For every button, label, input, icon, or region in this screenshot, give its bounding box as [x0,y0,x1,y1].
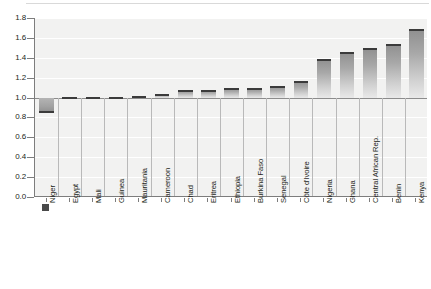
bar-value-cap [39,111,54,113]
y-axis-tick [27,177,34,178]
top-divider-rule [26,3,429,4]
bar-value-cap [363,48,378,50]
y-axis-tick-label: 0.4 [2,153,26,161]
bar[interactable] [409,29,424,98]
x-axis-tick [277,198,278,202]
bar[interactable] [201,90,216,98]
category-divider [359,98,360,197]
category-divider [58,98,59,197]
bar-value-cap [294,81,309,83]
y-axis-tick-label: 0.8 [2,113,26,121]
x-axis-category-label: Eritrea [210,181,218,203]
y-axis-tick [27,78,34,79]
y-axis-tick-label: 1.6 [2,34,26,42]
x-axis-category-label: Ghana [349,180,357,203]
bar[interactable] [386,44,401,98]
category-divider [336,98,337,197]
y-axis-tick [27,58,34,59]
y-axis-tick-label: 0.6 [2,133,26,141]
bar[interactable] [363,48,378,98]
bar-value-cap [86,97,101,99]
bar[interactable] [39,98,54,114]
y-axis-tick [27,38,34,39]
first-category-marker-swatch [42,204,49,211]
x-axis-category-label: Senegal [280,175,288,203]
y-axis-tick [27,197,34,198]
x-axis-tick [346,198,347,202]
x-axis-tick [115,198,116,202]
bar-value-cap [224,88,239,90]
y-axis-labels: 0.00.20.40.60.81.01.21.41.61.8 [0,0,26,289]
bar-value-cap [109,97,124,99]
x-axis-tick [161,198,162,202]
x-axis-category-label: Central African Rep. [372,136,380,203]
x-axis-category-label: Ethiopia [234,176,242,203]
x-axis-tick [92,198,93,202]
bar-value-cap [247,88,262,90]
bar[interactable] [62,97,77,99]
y-axis-tick-label: 1.0 [2,94,26,102]
bar[interactable] [340,52,355,98]
bar-value-cap [409,29,424,31]
x-axis-category-label: Côte d'Ivoire [303,161,311,203]
category-divider [174,98,175,197]
x-axis-tick [392,198,393,202]
x-axis-tick [369,198,370,202]
category-divider [382,98,383,197]
y-axis-tick-label: 0.0 [2,193,26,201]
x-axis-category-label: Niger [49,185,57,203]
bar[interactable] [294,81,309,98]
x-axis-tick [138,198,139,202]
bar[interactable] [178,90,193,98]
gridline [35,18,427,19]
bar[interactable] [132,96,147,98]
gridline [35,38,427,39]
bar-value-cap [270,86,285,88]
y-axis-tick [27,157,34,158]
x-axis-tick [231,198,232,202]
bar-value-cap [178,90,193,92]
y-axis-tick [27,18,34,19]
bar-value-cap [62,97,77,99]
y-axis-tick-label: 1.2 [2,74,26,82]
bar-chart-figure: 0.00.20.40.60.81.01.21.41.61.8 NigerEgyp… [0,0,431,289]
category-divider [289,98,290,197]
y-axis-tick [27,98,34,99]
y-axis-tick-label: 1.4 [2,54,26,62]
bar-value-cap [155,94,170,96]
bar[interactable] [247,88,262,98]
category-divider [127,98,128,197]
category-divider [104,98,105,197]
bar[interactable] [317,59,332,98]
bar[interactable] [224,88,239,98]
category-divider [81,98,82,197]
x-axis-tick [300,198,301,202]
bar[interactable] [86,97,101,99]
x-axis-category-label: Egypt [72,184,80,203]
x-axis-tick [69,198,70,202]
bar[interactable] [270,86,285,98]
bar-value-cap [201,90,216,92]
x-axis-category-label: Mali [95,189,103,203]
category-divider [405,98,406,197]
gridline [35,177,427,178]
x-axis-category-label: Nigeria [326,179,334,203]
x-axis-tick [415,198,416,202]
category-divider [243,98,244,197]
x-axis-tick [323,198,324,202]
bar[interactable] [109,97,124,99]
x-axis-category-label: Burkina Faso [257,159,265,203]
gridline [35,157,427,158]
x-axis-tick [207,198,208,202]
y-axis-tick-label: 0.2 [2,173,26,181]
bar-value-cap [317,59,332,61]
x-axis-tick [46,198,47,202]
bar[interactable] [155,94,170,98]
plot-area [34,18,427,197]
category-divider [197,98,198,197]
category-divider [312,98,313,197]
gridline [35,117,427,118]
x-axis-category-label: Chad [187,185,195,203]
bar-value-cap [132,96,147,98]
x-axis-category-label: Benin [395,184,403,203]
